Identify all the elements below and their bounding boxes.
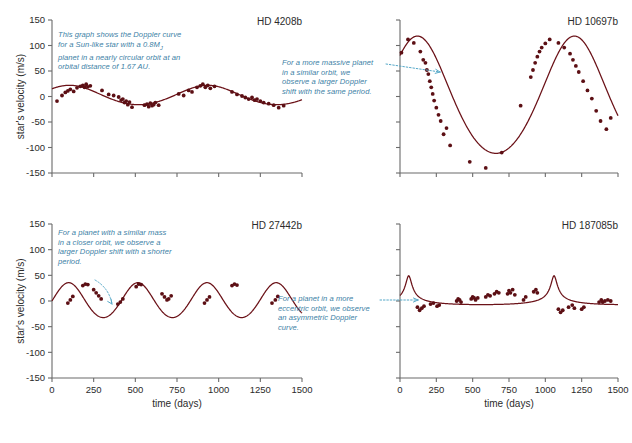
data-points (66, 282, 280, 306)
annotation-line: observe a larger Doppler (282, 77, 386, 87)
x-tick-label: 750 (501, 384, 517, 395)
y-axis-title: star's velocity (m/s) (15, 258, 26, 343)
data-point (208, 295, 212, 299)
annotation-line: in a similar orbit, we (282, 68, 386, 78)
data-point (425, 68, 429, 72)
data-point (531, 68, 535, 72)
data-point (570, 303, 574, 307)
panel-hd187085b: 0250500750100012501500time (days)HD 1870… (378, 214, 624, 410)
data-point (255, 97, 259, 101)
x-axis-title: time (days) (152, 398, 201, 409)
y-tick-label: -100 (26, 347, 45, 358)
annotation-line: For a planet with a similar mass (58, 228, 206, 238)
data-point (434, 106, 438, 110)
data-point (205, 298, 209, 302)
data-point (519, 104, 523, 108)
panel-title: HD 10697b (567, 16, 618, 27)
data-point (571, 58, 575, 62)
data-point (431, 92, 435, 96)
data-point (97, 294, 101, 298)
data-point (60, 94, 64, 98)
data-point (484, 166, 488, 170)
data-point (112, 94, 116, 98)
axis-spine (400, 20, 618, 173)
data-point (272, 103, 276, 107)
doppler-curves-figure: -150-100-50050100150star's velocity (m/s… (0, 0, 632, 443)
data-point (459, 300, 463, 304)
annotation-line: curve. (278, 323, 384, 333)
annotation-line: for a Sun-like star with a 0.8MJ (58, 40, 208, 53)
data-point (160, 292, 164, 296)
data-point (206, 83, 210, 87)
data-point (235, 283, 239, 287)
data-point (169, 294, 173, 298)
annotation-line: shift with the same period. (282, 87, 386, 97)
data-point (468, 160, 472, 164)
annotation-line: orbital distance of 1.67 AU. (58, 62, 208, 72)
data-point (412, 41, 416, 45)
y-tick-label: 50 (34, 65, 45, 76)
data-point (282, 104, 286, 108)
data-point (562, 46, 566, 50)
data-point (88, 84, 92, 88)
doppler-fit-curve (52, 283, 302, 318)
data-point (594, 109, 598, 113)
data-point (147, 105, 151, 109)
plot-hd187085b: 0250500750100012501500time (days)HD 1870… (378, 214, 624, 410)
data-point (107, 93, 111, 97)
annotation-line: For a more massive planet (282, 58, 386, 68)
data-point (153, 101, 157, 105)
x-tick-label: 1000 (535, 384, 556, 395)
data-point (270, 301, 274, 305)
data-point (513, 293, 517, 297)
data-point (86, 283, 90, 287)
data-point (548, 37, 552, 41)
data-point (201, 82, 205, 86)
data-point (488, 294, 492, 298)
annotation-line: in a closer orbit, we observe a (58, 238, 206, 248)
data-point (476, 296, 480, 300)
data-point (139, 283, 143, 287)
data-point (117, 95, 121, 99)
data-point (567, 305, 571, 309)
data-point (577, 70, 581, 74)
data-point (432, 99, 436, 103)
data-point (500, 151, 504, 155)
data-point (124, 99, 128, 103)
data-point (267, 102, 271, 106)
data-point (68, 298, 72, 302)
annotation-line: planet in a nearly circular orbit at an (58, 53, 208, 63)
x-tick-label: 1250 (250, 384, 271, 395)
annotation-line: an asymmetric Doppler (278, 313, 384, 323)
y-tick-label: 150 (29, 14, 45, 25)
data-point (128, 100, 132, 104)
data-point (448, 144, 452, 148)
data-point (421, 58, 425, 62)
data-point (208, 86, 212, 90)
data-point (568, 52, 572, 56)
data-point (75, 86, 79, 90)
data-point (99, 297, 103, 301)
data-point (538, 50, 542, 54)
panel-title: HD 27442b (251, 220, 302, 231)
axis-spine (400, 224, 618, 378)
data-point (581, 79, 585, 83)
data-point (262, 101, 266, 105)
data-point (535, 291, 539, 295)
data-point (177, 92, 181, 96)
data-point (522, 298, 526, 302)
data-point (524, 295, 528, 299)
data-point (195, 85, 199, 89)
data-point (586, 88, 590, 92)
data-point (400, 51, 404, 55)
data-point (561, 308, 565, 312)
data-point (582, 305, 586, 309)
x-tick-label: 1500 (291, 384, 312, 395)
data-point (121, 97, 125, 101)
y-tick-label: 100 (29, 244, 45, 255)
data-point (72, 90, 76, 94)
x-tick-label: 0 (397, 384, 402, 395)
data-point (190, 90, 194, 94)
data-point (424, 61, 428, 65)
x-tick-label: 500 (465, 384, 481, 395)
